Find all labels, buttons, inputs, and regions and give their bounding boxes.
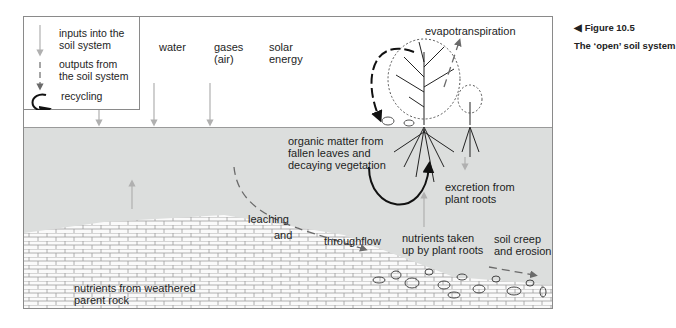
organic-matter-label: organic matter from fallen leaves and de…: [288, 135, 386, 171]
figure-number: ◀ Figure 10.5: [574, 22, 635, 34]
legend: inputs into the soil system outputs from…: [24, 17, 140, 110]
parent-rock-label: nutrients from weathered parent rock: [74, 282, 196, 306]
recycling-loop-icon: [33, 95, 46, 111]
and-label: and: [274, 229, 292, 241]
water-label: water: [159, 41, 186, 53]
tree-illustration: [382, 39, 482, 182]
nutrients-taken-up-label: nutrients taken up by plant roots: [402, 232, 483, 256]
throughflow-label: throughflow: [324, 235, 381, 247]
soil-creep-label: soil creep and erosion: [494, 233, 552, 257]
recycling-loop-arrow: [369, 167, 429, 205]
recycling-upper-arrow: [372, 49, 414, 117]
evapotranspiration-label: evapotranspiration: [425, 25, 516, 37]
legend-recycling-label: recycling: [61, 90, 102, 102]
soil-system-diagram: inputs into the soil system outputs from…: [23, 16, 553, 309]
evapotranspiration-arrow: [444, 42, 459, 87]
solar-energy-label: solar energy: [269, 41, 303, 65]
figure-caption: ◀ Figure 10.5 The ‘open’ soil system: [574, 22, 635, 34]
legend-inputs-label: inputs into the soil system: [59, 27, 124, 51]
excretion-label: excretion from plant roots: [445, 181, 515, 205]
legend-outputs-label: outputs from the soil system: [59, 58, 128, 82]
figure-title: The ‘open’ soil system: [574, 40, 675, 52]
soil-creep-arrow: [489, 267, 534, 275]
gases-label: gases (air): [214, 41, 243, 65]
leaching-label: leaching: [248, 213, 289, 225]
